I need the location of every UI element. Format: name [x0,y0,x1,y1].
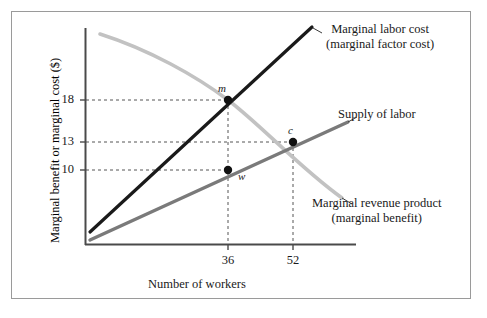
y-axis-title: Marginal benefit or marginal cost ($) [48,58,63,243]
marginal-labor-cost-label: Marginal labor cost (marginal factor cos… [326,22,434,52]
x-axis-title: Number of workers [148,277,246,292]
mrp-label-line2: (marginal benefit) [332,211,422,225]
mlc-label-line1: Marginal labor cost [331,22,429,36]
x-tick-label-52: 52 [273,253,313,268]
y-tick-label-13: 13 [44,134,74,149]
point-m-label: m [218,82,226,95]
supply-of-labor-line [90,122,348,240]
point-m-marker [224,96,232,104]
mlc-label-line2: (marginal factor cost) [326,37,434,51]
marginal-revenue-product-curve [100,34,342,198]
mrp-label-line1: Marginal revenue product [312,196,442,210]
point-w-label: w [238,170,245,183]
point-c-label: c [288,124,293,137]
point-c-marker [289,138,297,146]
y-tick-label-10: 10 [44,162,74,177]
figure-container: Marginal benefit or marginal cost ($) 18… [0,0,487,318]
leader-line-mlc [313,28,322,33]
marginal-revenue-product-label: Marginal revenue product (marginal benef… [312,196,442,226]
dashed-guide-lines [86,100,293,244]
x-tick-label-36: 36 [208,253,248,268]
y-tick-label-18: 18 [44,92,74,107]
supply-of-labor-label: Supply of labor [338,107,416,122]
marginal-labor-cost-line [90,27,312,232]
point-w-marker [224,166,232,174]
